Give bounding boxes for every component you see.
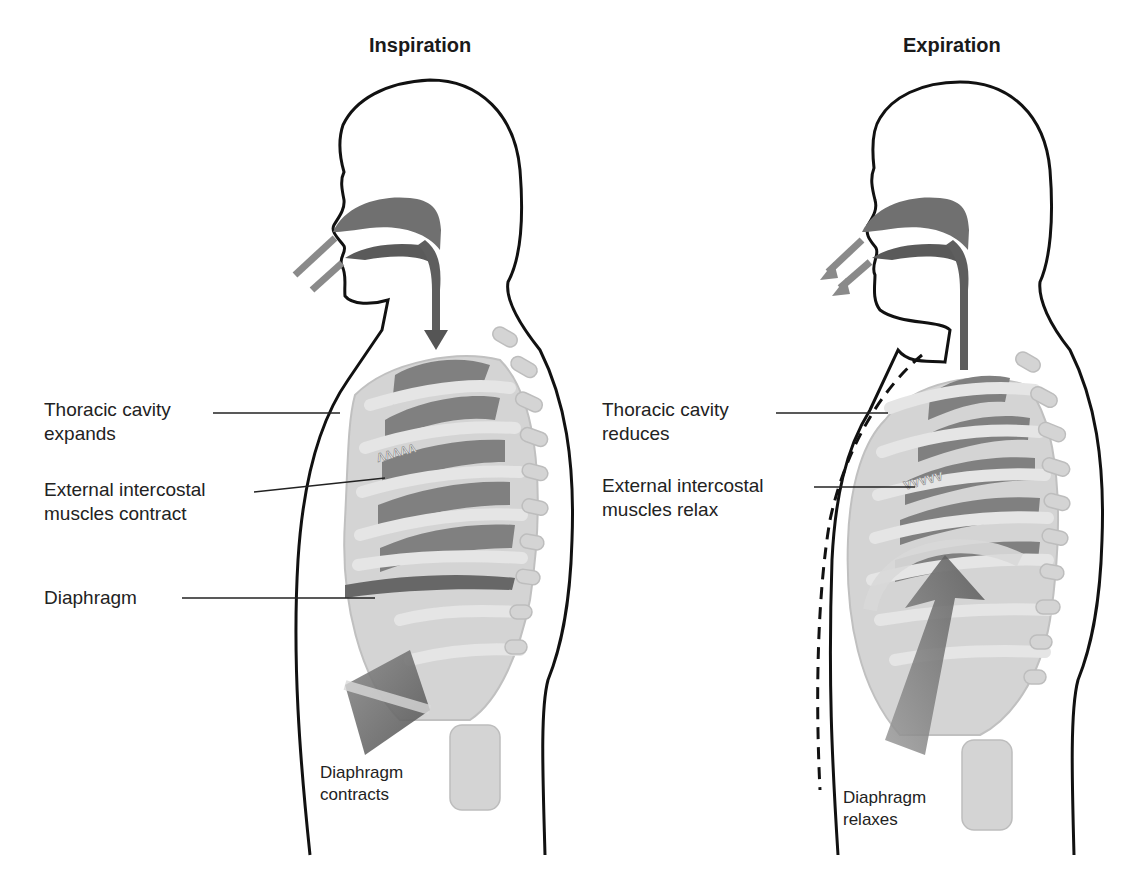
label-thoracic-cavity-reduces: Thoracic cavity reduces <box>602 398 729 446</box>
trachea <box>946 240 968 370</box>
inspiration-figure: ΛΛΛΛΛ <box>182 80 573 855</box>
label-thoracic-cavity-expands: Thoracic cavity expands <box>44 398 171 446</box>
label-external-intercostal-contract: External intercostal muscles contract <box>44 478 206 526</box>
ribcage: ΛΛΛΛΛ <box>344 356 538 720</box>
label-diaphragm: Diaphragm <box>44 586 137 610</box>
inhale-arrow-head <box>424 330 448 350</box>
panel-title-inspiration: Inspiration <box>369 34 471 57</box>
air-inflow-lower <box>312 263 342 290</box>
label-external-intercostal-relax: External intercostal muscles relax <box>602 474 764 522</box>
respiration-diagram: ΛΛΛΛΛ <box>0 0 1148 880</box>
expiration-figure: VVVVV <box>776 82 1103 855</box>
label-diaphragm-relaxes: Diaphragm relaxes <box>843 787 926 831</box>
label-diaphragm-contracts: Diaphragm contracts <box>320 762 403 806</box>
air-inflow-upper <box>295 238 335 275</box>
panel-title-expiration: Expiration <box>903 34 1001 57</box>
